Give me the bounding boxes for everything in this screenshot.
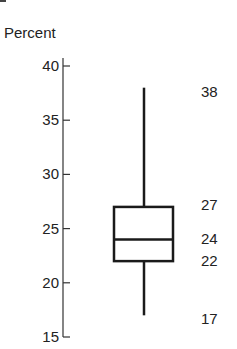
- value-label: 24: [201, 230, 218, 247]
- cropped-text-fragment: [0, 0, 6, 2]
- value-label: 27: [201, 196, 218, 213]
- value-label: 17: [201, 310, 218, 327]
- iqr-box: [114, 207, 173, 261]
- box-plot-chart: Percent 152025303540 3827242217: [0, 0, 237, 349]
- y-tick-label: 15: [42, 328, 59, 345]
- value-label: 38: [201, 83, 218, 100]
- y-tick-label: 35: [42, 111, 59, 128]
- box-plot: [114, 88, 173, 316]
- y-tick-label: 25: [42, 220, 59, 237]
- y-axis-label: Percent: [4, 24, 57, 41]
- value-label: 22: [201, 252, 218, 269]
- y-tick-label: 20: [42, 274, 59, 291]
- value-annotations: 3827242217: [201, 83, 218, 328]
- y-axis: 152025303540: [42, 57, 70, 345]
- y-tick-label: 30: [42, 165, 59, 182]
- y-tick-label: 40: [42, 57, 59, 74]
